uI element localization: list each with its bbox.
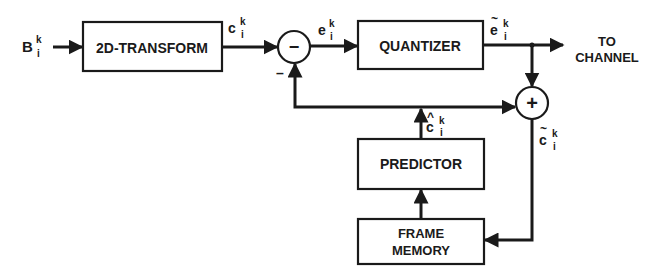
svg-text:k: k [329,18,335,29]
svg-text:c: c [426,119,434,135]
reconstructed-signal-label: ~ c k i [539,122,558,152]
svg-text:c: c [539,132,547,148]
transform-label: 2D-TRANSFORM [96,40,208,56]
output-label-line1: TO [598,34,616,49]
svg-text:k: k [439,115,445,126]
transform-block: 2D-TRANSFORM [83,22,222,71]
input-signal-label: B k i [22,34,42,59]
coder-block-diagram: B k i 2D-TRANSFORM c k i − – e k i QUANT… [0,0,667,278]
svg-text:i: i [553,141,556,152]
quantizer-label: QUANTIZER [379,38,461,54]
predictor-block: PREDICTOR [358,139,484,189]
svg-text:k: k [552,128,558,139]
svg-text:i: i [504,31,507,42]
svg-text:k: k [503,18,509,29]
svg-text:i: i [330,31,333,42]
error-signal-label: e k i [318,18,335,42]
reconstructed-to-memory-arrow [485,119,532,240]
prediction-signal-label: ^ c k i [426,110,445,138]
svg-text:i: i [440,127,443,138]
svg-text:B: B [22,38,33,55]
svg-text:i: i [37,48,40,59]
svg-text:c: c [228,20,236,36]
svg-text:k: k [240,16,246,27]
plus-icon: + [526,92,538,114]
prediction-to-subtractor-line [295,64,421,107]
transform-output-label: c k i [228,16,246,40]
svg-text:i: i [241,29,244,40]
svg-text:k: k [36,34,42,45]
output-label-line2: CHANNEL [575,50,639,65]
frame-memory-label-line2: MEMORY [392,243,450,258]
quantized-error-label: ~ e k i [490,12,509,42]
subtractor-node: − [278,31,310,63]
frame-memory-block: FRAME MEMORY [358,219,484,264]
adder-node: + [516,87,548,119]
svg-text:e: e [490,22,498,38]
quantizer-block: QUANTIZER [358,21,483,69]
negative-input-sign: – [276,65,284,81]
predictor-label: PREDICTOR [380,156,462,172]
minus-icon: − [289,37,300,57]
svg-text:e: e [318,22,326,38]
frame-memory-label-line1: FRAME [398,226,445,241]
